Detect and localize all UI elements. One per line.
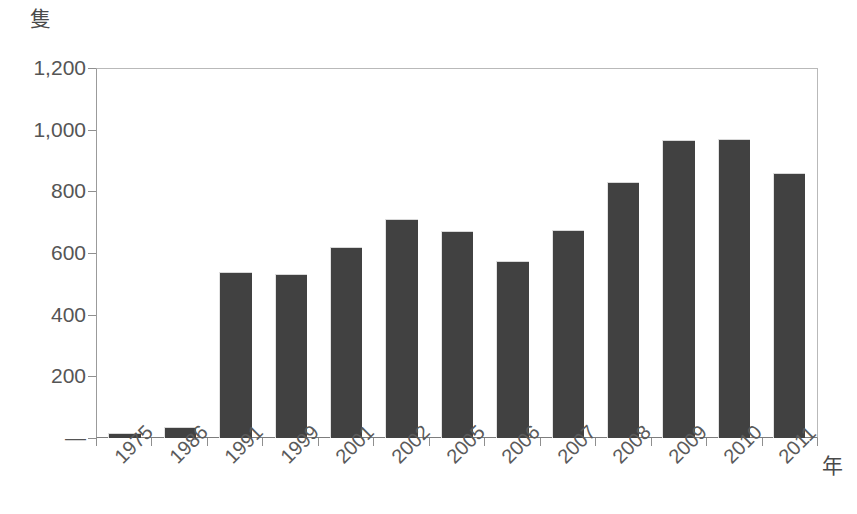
y-tick-mark-400 — [88, 315, 96, 316]
y-axis-unit-label: 隻 — [30, 8, 51, 29]
y-tick-mark-1200 — [88, 68, 96, 69]
bar-chart: 隻 1,200 1,000 800 600 400 200 ― — [0, 0, 857, 514]
y-tick-label-200: 200 — [51, 364, 86, 388]
x-axis-labels: 1975 1986 1991 1999 2001 2002 2005 2006 … — [0, 438, 857, 514]
bar-2005 — [441, 231, 473, 438]
x-axis-unit-label: 年 — [822, 455, 843, 476]
bar-2008 — [607, 182, 639, 438]
bar-2002 — [385, 219, 417, 438]
bar-2009 — [662, 140, 694, 438]
y-tick-label-600: 600 — [51, 241, 86, 265]
y-tick-mark-800 — [88, 191, 96, 192]
y-axis-labels: 1,200 1,000 800 600 400 200 ― — [0, 68, 86, 438]
y-tick-mark-1000 — [88, 130, 96, 131]
bar-2007 — [552, 230, 584, 438]
y-tick-label-1200: 1,200 — [33, 56, 86, 80]
y-tick-mark-600 — [88, 253, 96, 254]
y-tick-label-400: 400 — [51, 303, 86, 327]
bar-2001 — [330, 247, 362, 438]
y-tick-label-1000: 1,000 — [33, 118, 86, 142]
y-tick-mark-200 — [88, 376, 96, 377]
bar-2006 — [496, 261, 528, 438]
bars-layer — [97, 68, 817, 438]
bar-1991 — [219, 272, 251, 439]
bar-2010 — [718, 139, 750, 438]
bar-2011 — [773, 173, 805, 438]
y-tick-label-800: 800 — [51, 179, 86, 203]
bar-1999 — [275, 274, 307, 438]
